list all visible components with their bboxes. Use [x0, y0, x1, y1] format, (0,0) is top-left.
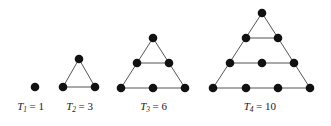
dot-node: [165, 59, 174, 68]
dot-node: [290, 59, 299, 68]
dot-node: [133, 59, 142, 68]
dot-node: [274, 34, 283, 43]
dot-node: [242, 34, 251, 43]
dot-node: [274, 84, 283, 93]
triangular-numbers-figure: T1= 1T2= 3T3= 6T4= 10: [0, 0, 331, 126]
dot-node: [75, 55, 84, 64]
figure-canvas: T1= 1T2= 3T3= 6T4= 10: [0, 0, 331, 126]
dot-node: [91, 83, 100, 92]
dot-node: [258, 59, 267, 68]
dot-node: [226, 59, 235, 68]
dot-node: [181, 84, 190, 93]
caption-subscript: 1: [23, 105, 27, 114]
caption-subscript: 4: [250, 105, 254, 114]
dot-node: [149, 34, 158, 43]
dot-node: [59, 83, 68, 92]
dot-node: [306, 84, 315, 93]
dot-node: [242, 84, 251, 93]
dot-node: [149, 84, 158, 93]
caption-subscript: 3: [145, 105, 150, 114]
caption-value: = 3: [79, 100, 94, 112]
caption-value: = 1: [30, 100, 44, 112]
caption-subscript: 2: [72, 105, 76, 114]
caption-value: = 6: [153, 100, 168, 112]
dot-node: [258, 9, 267, 18]
dot-node: [209, 84, 218, 93]
caption-value: = 10: [256, 100, 276, 112]
dot-node: [117, 84, 126, 93]
dot-node: [31, 83, 40, 92]
